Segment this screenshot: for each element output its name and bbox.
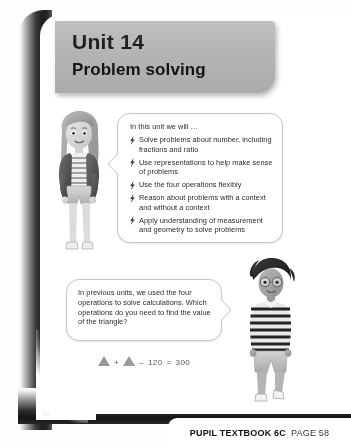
objectives-speech-bubble: In this unit we will … Solve problems ab… xyxy=(117,113,283,243)
objectives-intro-text: In this unit we will … xyxy=(130,122,273,131)
lightning-bolt-icon xyxy=(129,194,136,203)
objective-text: Use representations to help make sense o… xyxy=(139,158,272,176)
objective-text: Apply understanding of measurement and g… xyxy=(139,216,263,234)
question-text: In previous units, we used the four oper… xyxy=(78,288,212,327)
lightning-bolt-icon xyxy=(129,136,136,145)
list-item: Use representations to help make sense o… xyxy=(128,158,273,177)
footer-book-label: PUPIL TEXTBOOK 6C xyxy=(190,428,286,438)
list-item: Apply understanding of measurement and g… xyxy=(128,216,273,235)
objective-text: Use the four operations flexibly xyxy=(139,180,241,189)
equals-operator: = xyxy=(166,358,173,367)
list-item: Solve problems about number, including f… xyxy=(128,135,273,154)
boy-character xyxy=(232,256,308,408)
triangle-equation: + – 120 = 300 xyxy=(98,357,190,367)
question-speech-bubble: In previous units, we used the four oper… xyxy=(66,279,222,341)
textbook-page-scan: Unit 14 Problem solving xyxy=(0,0,351,447)
unit-header-banner: Unit 14 Problem solving xyxy=(55,21,275,93)
plus-operator: + xyxy=(113,358,120,367)
minus-operator: – xyxy=(138,358,145,367)
list-item: Reason about problems with a context and… xyxy=(128,193,273,212)
result-value: 300 xyxy=(176,358,191,367)
page-number: 58 xyxy=(42,410,50,417)
lightning-bolt-icon xyxy=(129,158,136,167)
page-subtitle: Problem solving xyxy=(72,61,206,78)
page-corner-fold xyxy=(42,383,88,423)
list-item: Use the four operations flexibly xyxy=(128,180,273,189)
subtrahend-value: 120 xyxy=(148,358,163,367)
footer-page-label: PAGE 58 xyxy=(291,428,329,438)
girl-character xyxy=(42,108,116,260)
objective-text: Reason about problems with a context and… xyxy=(139,193,266,211)
footer-reference-tab: PUPIL TEXTBOOK 6C PAGE 58 xyxy=(168,418,351,447)
triangle-icon xyxy=(123,356,135,366)
triangle-icon xyxy=(98,356,110,366)
lightning-bolt-icon xyxy=(129,181,136,190)
objective-text: Solve problems about number, including f… xyxy=(139,135,272,153)
page-title: Unit 14 xyxy=(72,31,144,52)
objectives-list: Solve problems about number, including f… xyxy=(128,135,273,234)
lightning-bolt-icon xyxy=(129,216,136,225)
